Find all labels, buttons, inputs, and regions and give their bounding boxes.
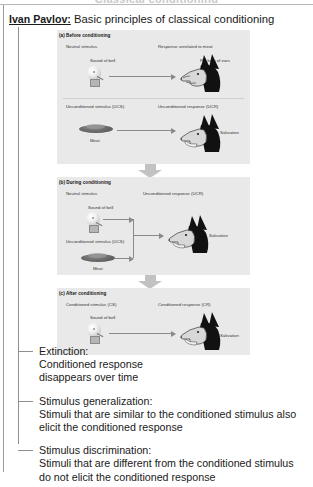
panel-b-row2-stimulus-label: Unconditioned stimulus (UCS) [66,239,124,244]
panel-a-row2-stimulus-label: Unconditioned stimulus (UCS) [66,104,124,109]
panel-a-label: (a) Before conditioning [59,30,250,38]
dog-head-icon [177,112,223,152]
panel-b-merge-line [133,219,134,258]
classical-conditioning-figure: (a) Before conditioning Neutral stimulus… [57,30,250,355]
meat-icon [81,253,115,264]
concept-title: Stimulus generalization: [39,395,313,408]
cut-off-page-title: Classical conditioning [0,0,313,3]
panel-a-row1-stimulus-label: Neutral stimulus [66,44,97,49]
page-title-rest: Basic principles of classical conditioni… [71,13,274,25]
list-item: Extinction: Conditioned response disappe… [18,345,313,385]
bracket-tick [18,401,33,402]
panel-a-divider [63,98,244,99]
top-divider [0,4,313,5]
panel-a-row2-response-label: Unconditioned response (UCR) [158,104,218,109]
panel-a-row1-arrow-icon [109,76,175,77]
panel-b-row2-stimulus-name: Meat [93,266,103,271]
panel-a-row1-response-label: Response unrelated to meat [158,44,213,49]
panel-c-response-name: Salivation [220,333,239,338]
meat-icon [79,124,113,135]
panel-b-row1-stimulus-label: Neutral stimulus [66,191,97,196]
panel-c-arrow-icon [109,333,175,334]
bell-icon [86,323,102,342]
panel-a-row2-arrow-icon [117,130,175,131]
concept-line: do not elicit the conditioned response [39,471,313,484]
dog-head-icon [177,52,223,92]
bell-icon [85,212,101,231]
panel-c-stimulus-label: Conditioned stimulus (CS) [66,302,116,307]
down-arrow-icon [57,164,250,177]
list-item: Stimulus generalization: Stimuli that ar… [18,395,313,435]
panel-a-row2-response-name: Salivation [220,130,239,135]
panel-c-response-label: Conditioned response (CR) [158,302,211,307]
concept-line: Conditioned response [39,358,313,371]
panel-b-row1-stimulus-name: Sound of bell [88,205,113,210]
bell-icon [86,66,102,85]
page-title: Ivan Pavlov: Basic principles of classic… [9,13,309,26]
panel-c-label: (c) After conditioning [59,288,250,296]
panel-c-stimulus-name: Sound of bell [90,315,115,320]
list-item: Stimulus discrimination: Stimuli that ar… [18,444,313,484]
concept-line: Stimuli that are different from the cond… [39,457,313,470]
dog-head-icon [177,310,223,350]
down-arrow-icon [57,275,250,288]
bracket-tick [18,450,33,451]
panel-b-meat-connector [115,258,133,259]
panel-b-arrow-icon [133,235,163,236]
concept-title: Extinction: [39,345,313,358]
panel-during-conditioning: (b) During conditioning Neutral stimulus… [57,177,250,275]
concept-line: elicit the conditioned response [39,421,313,434]
concepts-list: Extinction: Conditioned response disappe… [18,345,313,487]
panel-a-row1-stimulus-name: Sound of bell [90,58,115,63]
concept-line: disappears over time [39,371,313,384]
concept-line: Stimuli that are similar to the conditio… [39,408,313,421]
panel-b-row1-response-label: Unconditioned response (UCR) [143,191,203,196]
dog-head-icon [165,213,211,253]
panel-b-label: (b) During conditioning [59,177,250,185]
panel-a-row2-stimulus-name: Meat [90,138,100,143]
pavlov-name-label: Ivan Pavlov: [9,13,71,25]
panel-before-conditioning: (a) Before conditioning Neutral stimulus… [57,30,250,164]
concept-title: Stimulus discrimination: [39,444,313,457]
panel-b-bell-connector [103,219,133,220]
panel-b-row1-response-name: Salivation [209,233,228,238]
page-left-border [3,5,4,472]
bracket-tick [18,351,33,352]
